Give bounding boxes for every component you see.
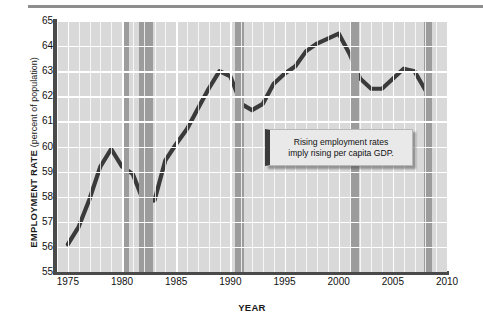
x-axis-tick-label: 1985 (154, 277, 198, 287)
horizontal-gridline (57, 172, 447, 173)
horizontal-gridline (57, 247, 447, 248)
horizontal-gridline (57, 222, 447, 223)
horizontal-gridline (57, 121, 447, 122)
y-axis-tick-label: 60 (9, 142, 53, 152)
x-axis-title: YEAR (57, 302, 447, 313)
y-axis-tick-label: 59 (9, 167, 53, 177)
x-axis-tick-label: 2000 (317, 277, 361, 287)
horizontal-gridline (57, 71, 447, 72)
x-axis-tick-label: 1980 (100, 277, 144, 287)
y-axis-tick-label: 64 (9, 41, 53, 51)
annotation-line-1: Rising employment rates (288, 137, 393, 148)
x-axis-tick-label: 2005 (371, 277, 415, 287)
x-axis-tick-label: 2010 (425, 277, 469, 287)
y-axis-tick-label: 63 (9, 66, 53, 76)
annotation-line-2: imply rising per capita GDP. (288, 148, 393, 159)
y-axis-tick-label: 61 (9, 116, 53, 126)
y-axis-tick-label: 58 (9, 192, 53, 202)
y-axis-tick-label: 62 (9, 91, 53, 101)
x-axis-tick-label: 1975 (46, 277, 90, 287)
horizontal-gridline (57, 197, 447, 198)
y-axis-tick-label: 57 (9, 217, 53, 227)
horizontal-gridline (57, 96, 447, 97)
y-axis-tick-label: 55 (9, 267, 53, 277)
annotation-callout: Rising employment rates imply rising per… (265, 129, 413, 166)
y-axis-tick-label: 65 (9, 16, 53, 26)
employment-rate-chart-figure: EMPLOYMENT RATE (percent of population) … (0, 0, 483, 324)
y-axis-tick-label: 56 (9, 242, 53, 252)
horizontal-gridline (57, 21, 447, 22)
annotation-callout-text: Rising employment rates imply rising per… (283, 137, 398, 159)
x-axis-tick-label: 1995 (263, 277, 307, 287)
y-axis-title: EMPLOYMENT RATE (percent of population) (28, 28, 39, 278)
x-axis-tick-label: 1990 (208, 277, 252, 287)
top-divider-rule (28, 5, 483, 8)
horizontal-gridline (57, 46, 447, 47)
